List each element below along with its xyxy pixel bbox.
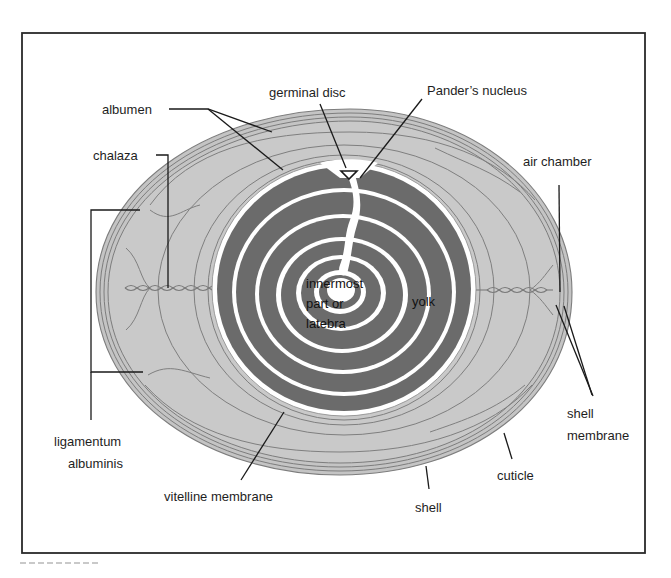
label-vitelline-membrane: vitelline membrane [164, 489, 273, 504]
label-innermost-line2: part or [306, 294, 363, 314]
label-albumen: albumen [102, 102, 152, 117]
label-innermost-line1: innermost [306, 274, 363, 294]
label-panders-nucleus: Pander’s nucleus [427, 83, 527, 98]
label-air-chamber: air chamber [523, 154, 592, 169]
label-shell-membrane-line1: shell [567, 403, 629, 425]
label-shell: shell [415, 500, 442, 515]
label-germinal-disc: germinal disc [269, 85, 346, 100]
label-yolk: yolk [412, 292, 435, 312]
label-chalaza: chalaza [93, 148, 138, 163]
label-ligamentum-line1: ligamentum [54, 431, 123, 453]
leader-shell [426, 466, 429, 489]
caption-fragment [20, 562, 100, 564]
label-innermost-line3: latebra [306, 314, 363, 334]
leader-shell-membrane-2 [564, 306, 592, 395]
label-ligamentum-albuminis: ligamentum albuminis [54, 431, 123, 475]
label-cuticle: cuticle [497, 468, 534, 483]
label-ligamentum-line2: albuminis [54, 453, 123, 475]
label-innermost-latebra: innermost part or latebra [306, 274, 363, 334]
leader-cuticle [504, 433, 512, 459]
label-shell-membrane-line2: membrane [567, 425, 629, 447]
label-shell-membrane: shell membrane [567, 403, 629, 447]
